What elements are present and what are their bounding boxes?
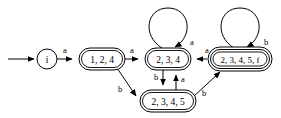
transition-i-to-124: a — [57, 45, 72, 59]
transition-2345-to-234: a — [176, 74, 185, 90]
edge-line-2345f-self-loop — [221, 8, 259, 48]
transition-124-to-234: a — [125, 45, 138, 59]
edge-label-2345-to-234: a — [181, 74, 185, 84]
edge-label-2345f-self-loop: b — [264, 37, 268, 47]
fsm-diagram-svg: a a b a b a b — [0, 0, 281, 118]
state-node-i[interactable]: i — [37, 49, 57, 69]
state-node-124[interactable]: 1, 2, 4 — [79, 48, 125, 70]
edge-label-124-to-2345: b — [118, 84, 122, 94]
state-label-234: 2, 3, 4 — [156, 55, 180, 65]
edge-label-234-self-loop: a — [190, 37, 194, 47]
state-label-2345: 2, 3, 4, 5 — [151, 97, 185, 107]
edge-label-124-to-234: a — [130, 45, 134, 55]
state-label-i: i — [46, 55, 49, 65]
state-label-2345f: 2, 3, 4, 5, f — [221, 55, 260, 65]
transition-234-to-2345: b — [154, 70, 163, 85]
transition-2345f-to-234: a — [197, 45, 209, 59]
edge-line-234-self-loop — [149, 8, 187, 48]
edge-label-2345f-to-234: a — [205, 45, 209, 55]
transition-234-self-loop: a — [149, 8, 194, 48]
fsm-diagram-canvas: a a b a b a b — [0, 0, 281, 118]
state-node-234[interactable]: 2, 3, 4 — [145, 48, 191, 70]
edge-line-2345-to-2345f — [193, 72, 220, 97]
state-node-2345f[interactable]: 2, 3, 4, 5, f — [208, 47, 272, 71]
transition-2345f-self-loop: b — [221, 8, 268, 48]
state-node-2345[interactable]: 2, 3, 4, 5 — [140, 90, 196, 112]
transition-124-to-2345: b — [117, 68, 136, 96]
edge-label-i-to-124: a — [63, 45, 67, 55]
transition-2345-to-2345f: b — [193, 72, 220, 98]
edge-label-234-to-2345: b — [154, 72, 158, 82]
edge-label-2345-to-2345f: b — [202, 88, 206, 98]
state-label-124: 1, 2, 4 — [90, 55, 114, 65]
